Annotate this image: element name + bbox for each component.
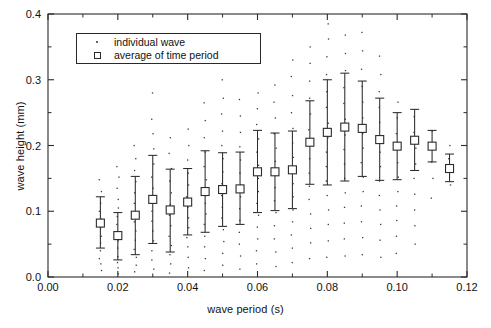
individual-wave-point [188,267,189,268]
individual-wave-point [221,145,222,146]
individual-wave-point [414,194,415,195]
individual-wave-point [326,180,327,181]
individual-wave-point [169,254,170,255]
individual-wave-point [136,265,137,266]
average-series [96,73,454,260]
individual-wave-point [203,102,204,103]
individual-wave-point [188,145,189,146]
average-marker [148,155,157,243]
individual-wave-point [101,191,102,192]
individual-wave-point [186,237,187,238]
legend-item-average: average of time period [80,49,218,61]
individual-wave-point [326,74,327,75]
individual-wave-point [361,162,362,163]
individual-wave-point [240,255,241,256]
individual-wave-point [362,237,363,238]
individual-wave-point [396,205,397,206]
individual-wave-point [379,195,380,196]
individual-wave-point [134,170,135,171]
individual-wave-point [188,128,189,129]
individual-wave-point [239,146,240,147]
individual-wave-point [415,148,416,149]
individual-wave-point [344,238,345,239]
individual-wave-point [345,192,346,193]
individual-wave-point [99,258,100,259]
individual-wave-point [257,92,258,93]
individual-wave-point [398,176,399,177]
individual-wave-point [361,32,362,33]
individual-wave-point [344,222,345,223]
individual-wave-point [328,240,329,241]
individual-wave-point [239,232,240,233]
individual-wave-point [328,209,329,210]
individual-wave-point [361,69,362,70]
x-tick-label: 0.02 [107,281,128,293]
individual-wave-point [291,234,292,235]
x-axis-title: wave period (s) [0,303,491,315]
y-tick-label: 0.4 [8,8,41,20]
individual-wave-point [362,254,363,255]
individual-wave-point [153,148,154,149]
individual-wave-point [344,255,345,256]
individual-wave-point [361,205,362,206]
individual-wave-point [256,124,257,125]
individual-wave-point [117,262,118,263]
individual-wave-point [362,50,363,51]
average-marker [270,133,279,211]
individual-wave-point [309,80,310,81]
individual-wave-point [222,130,223,131]
x-tick-label: 0.12 [456,281,477,293]
individual-wave-point [169,272,170,273]
individual-wave-point [99,179,100,180]
individual-wave-point [275,251,276,252]
x-tick-label: 0.10 [386,281,407,293]
individual-wave-point [397,102,398,103]
individual-wave-point [449,145,450,146]
individual-wave-point [274,225,275,226]
individual-wave-point [292,221,293,222]
individual-wave-point [380,74,381,75]
individual-wave-point [152,133,153,134]
individual-wave-point [275,212,276,213]
individual-wave-point [205,120,206,121]
individual-wave-point [258,138,259,139]
individual-wave-point [240,132,241,133]
individual-wave-point [256,263,257,264]
individual-wave-point [151,250,152,251]
individual-wave-point [379,209,380,210]
individual-wave-point [309,98,310,99]
average-marker [375,98,384,180]
individual-wave-point [379,55,380,56]
x-tick-label: 0.06 [247,281,268,293]
individual-wave-point [308,199,309,200]
individual-wave-point [258,165,259,166]
legend-item-individual-wave: individual wave [80,36,185,48]
individual-wave-point [170,137,171,138]
individual-wave-point [206,179,207,180]
average-marker [218,153,227,227]
individual-wave-point [273,102,274,103]
legend-dot-icon [80,41,114,43]
individual-wave-point [450,184,451,185]
individual-wave-point [292,95,293,96]
individual-wave-point [328,23,329,24]
individual-wave-point [134,221,135,222]
individual-wave-point [379,91,380,92]
individual-wave-point [292,209,293,210]
average-marker [253,130,262,212]
average-marker [323,80,332,185]
individual-wave-point [310,228,311,229]
y-tick-label: 0.0 [8,271,41,283]
average-marker [410,109,419,170]
y-tick-label: 0.2 [8,140,41,152]
individual-wave-point [309,63,310,64]
individual-wave-point [188,257,189,258]
individual-wave-point [258,215,259,216]
individual-wave-point [257,108,258,109]
y-tick-label: 0.3 [8,74,41,86]
individual-wave-point [170,263,171,264]
average-marker [183,169,192,235]
individual-wave-point [309,258,310,259]
individual-wave-point [134,271,135,272]
individual-wave-point [205,258,206,259]
